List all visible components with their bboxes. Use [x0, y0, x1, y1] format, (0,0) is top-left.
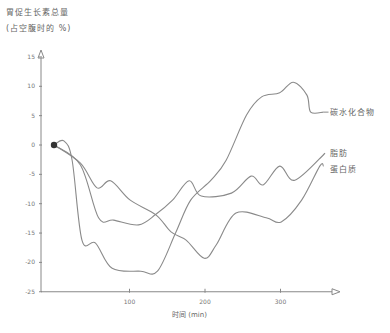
y-tick-label: -20 — [25, 258, 35, 265]
y-tick-label: 0 — [31, 141, 35, 148]
x-axis-arrow-icon — [332, 289, 340, 295]
label-protein: 蛋白质 — [330, 163, 357, 174]
y-tick-label: 10 — [27, 82, 35, 89]
x-tick-label: 300 — [275, 298, 287, 305]
series-protein — [54, 145, 324, 258]
label-fat: 脂肪 — [330, 147, 348, 158]
series-group — [51, 82, 329, 274]
y-tick-label: 5 — [31, 112, 35, 119]
x-axis-label: 时间 (min) — [172, 309, 207, 319]
y-tick-label: -15 — [25, 229, 35, 236]
x-tick-label: 200 — [199, 298, 211, 305]
start-marker — [51, 142, 57, 148]
axes: 151050-5-10-15-20-25100200300 — [25, 50, 340, 305]
y-tick-label: 15 — [27, 53, 35, 60]
y-tick-label: -5 — [29, 170, 35, 177]
y-tick-label: -10 — [25, 200, 35, 207]
series-carbohydrate — [54, 82, 324, 274]
label-carbohydrate: 碳水化合物 — [330, 106, 375, 117]
x-tick-label: 100 — [124, 298, 136, 305]
y-tick-label: -25 — [25, 288, 35, 295]
